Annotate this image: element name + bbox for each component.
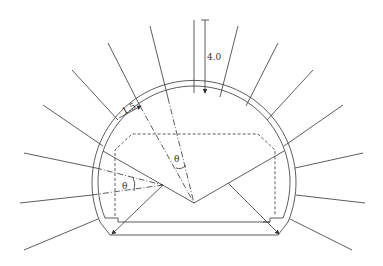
bolt-length-label: 4.0 <box>207 52 222 62</box>
side-angle-label: θ <box>122 181 127 191</box>
tunnel-diagram: 4.0 1.5 θ θ <box>0 0 383 266</box>
outer-lining <box>92 80 296 235</box>
crown-angle-label: θ <box>174 154 179 164</box>
spacing-label: 1.5 <box>120 101 138 117</box>
rock-bolts <box>20 20 365 250</box>
tunnel-cross-section: 4.0 1.5 θ θ <box>0 0 383 266</box>
clearance-envelope <box>115 134 275 216</box>
